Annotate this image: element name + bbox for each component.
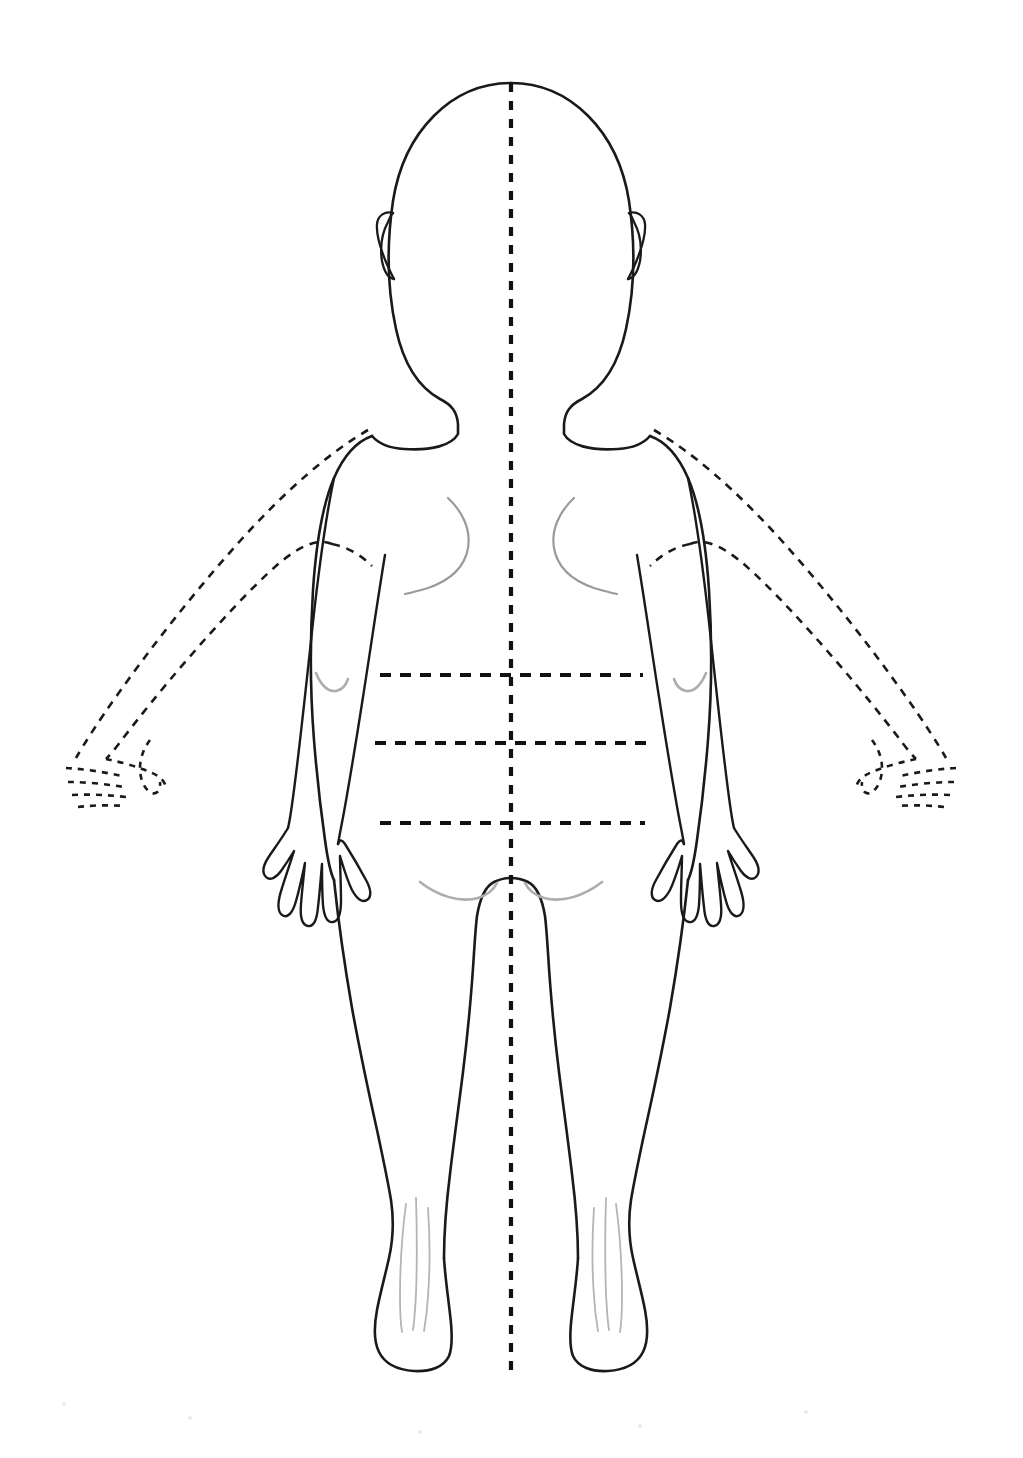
child-body-outline-figure — [0, 0, 1023, 1458]
diagram-page — [0, 0, 1023, 1458]
